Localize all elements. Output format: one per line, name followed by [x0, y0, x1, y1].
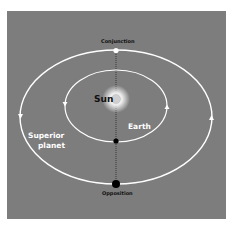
- superior-planet-label-line1: Superior: [28, 131, 64, 140]
- planet-conjunction-icon: [113, 48, 118, 53]
- opposition-label: Opposition: [102, 190, 133, 196]
- outer-orbit-arrow-right-icon: [209, 115, 214, 120]
- superior-planet-label-line2: planet: [38, 141, 65, 150]
- outer-orbit-arrow-left-icon: [18, 114, 23, 119]
- planet-opposition-icon: [112, 180, 120, 188]
- earth-label: Earth: [128, 122, 151, 131]
- earth-icon: [113, 138, 118, 143]
- inner-orbit-arrow-right-icon: [165, 105, 170, 110]
- conjunction-label: Conjunction: [101, 38, 135, 44]
- sun-label: Sun: [94, 94, 113, 104]
- inner-orbit-arrow-left-icon: [63, 102, 68, 107]
